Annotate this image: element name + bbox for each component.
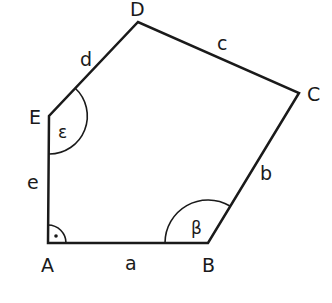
- side-label-b: b: [260, 162, 272, 184]
- vertex-label-b: B: [202, 254, 215, 276]
- right-angle-dot: [54, 234, 58, 238]
- vertex-label-e: E: [29, 106, 41, 128]
- side-label-a: a: [125, 252, 137, 274]
- side-label-c: c: [217, 32, 227, 54]
- vertex-label-c: C: [307, 83, 320, 105]
- vertex-label-d: D: [130, 0, 145, 20]
- angle-label-beta: β: [191, 218, 202, 238]
- right-angle-arc-a: [48, 225, 66, 243]
- angle-label-epsilon: ε: [58, 122, 67, 142]
- pentagon-diagram: A B C D E a b c d e β ε: [0, 0, 332, 303]
- vertex-label-a: A: [41, 254, 54, 276]
- angle-arc-epsilon: [49, 88, 87, 154]
- side-label-d: d: [80, 48, 92, 70]
- side-label-e: e: [27, 171, 39, 193]
